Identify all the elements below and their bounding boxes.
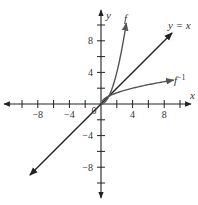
label-f-inverse: f−1 bbox=[174, 73, 186, 86]
y-tick-label: −4 bbox=[82, 130, 93, 141]
y-tick-label: −8 bbox=[82, 162, 93, 173]
axes bbox=[4, 10, 191, 198]
graph-canvas: −8−44884−4−80xyfy = xf−1 bbox=[0, 0, 198, 205]
curve-f-inverse bbox=[101, 80, 174, 104]
y-tick-label: 8 bbox=[88, 35, 93, 46]
x-tick-label: 4 bbox=[130, 109, 135, 120]
label-f: f bbox=[124, 12, 129, 24]
y-tick-label: 4 bbox=[88, 67, 93, 78]
origin-label: 0 bbox=[92, 105, 97, 116]
label-y-equals-x: y = x bbox=[167, 19, 191, 31]
x-axis-label: x bbox=[189, 89, 195, 101]
curves bbox=[30, 23, 174, 175]
y-axis-label: y bbox=[105, 9, 111, 21]
x-tick-label: −8 bbox=[32, 109, 43, 120]
x-tick-label: 8 bbox=[162, 109, 167, 120]
x-tick-label: −4 bbox=[64, 109, 75, 120]
